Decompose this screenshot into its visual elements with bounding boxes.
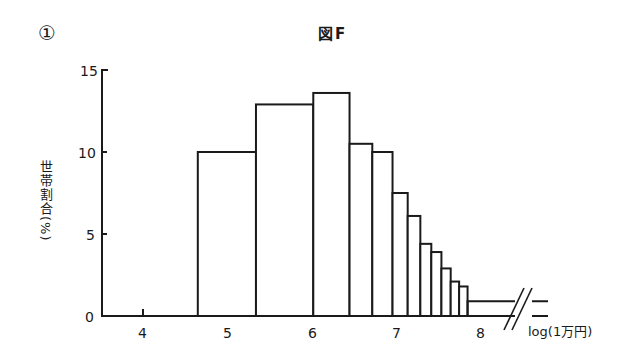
histogram-bar [408,216,421,316]
histogram-bar [431,252,441,316]
histogram-bars [198,93,548,316]
histogram-bar [393,193,408,316]
histogram-bar [313,93,349,316]
histogram-plot [0,0,638,364]
histogram-bar [459,286,467,316]
histogram-bar [372,152,392,316]
histogram-bar [256,104,313,316]
histogram-bar [441,268,450,316]
histogram-bar [420,244,431,316]
axis-break-icon [504,288,532,330]
histogram-bar [198,152,256,316]
histogram-bar [350,144,373,316]
histogram-bar [468,301,548,316]
histogram-bar [451,282,459,316]
